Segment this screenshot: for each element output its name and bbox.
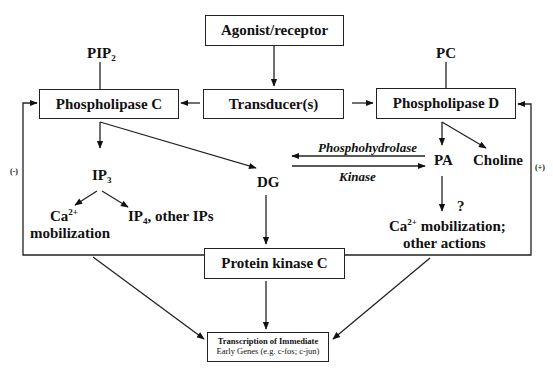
ip3-text: IP: [92, 167, 107, 183]
ip3-label: IP3: [92, 168, 112, 185]
pa-ca-mobilization-label: Ca2+ mobilization;: [389, 218, 506, 234]
ca-text: Ca2+: [50, 208, 78, 224]
phospholipase-d-box: Phospholipase D: [376, 88, 516, 119]
agonist-receptor-box: Agonist/receptor: [205, 15, 344, 46]
pip-subscript: 2: [111, 53, 116, 63]
pc-label: PC: [436, 46, 456, 61]
transcription-box: Transcription of Immediate Early Genes (…: [207, 332, 329, 362]
mobilization-text: mobilization: [30, 225, 110, 241]
other-actions-label: other actions: [403, 236, 486, 251]
ip4-label: IP4, other IPs: [128, 209, 213, 226]
pa-label: PA: [434, 153, 453, 168]
phospholipase-c-box: Phospholipase C: [39, 89, 179, 119]
negative-feedback-label: (-): [10, 168, 18, 176]
protein-kinase-c-box: Protein kinase C: [204, 248, 345, 279]
transducer-box: Transducer(s): [203, 89, 344, 119]
dg-label: DG: [257, 175, 280, 190]
transcription-line-2: Early Genes (e.g. c-fos; c-jun): [217, 347, 320, 357]
question-mark: ?: [457, 199, 465, 214]
pip2-label: PIP2: [87, 46, 116, 63]
kinase-label: Kinase: [339, 170, 376, 183]
choline-label: Choline: [473, 153, 523, 168]
phosphohydrolase-label: Phosphohydrolase: [318, 141, 417, 154]
ip3-subscript: 3: [107, 175, 112, 185]
positive-feedback-label: (+): [535, 164, 545, 172]
pip-text: PIP: [87, 45, 111, 61]
ca-mobilization-label: Ca2+ mobilization: [30, 208, 110, 241]
